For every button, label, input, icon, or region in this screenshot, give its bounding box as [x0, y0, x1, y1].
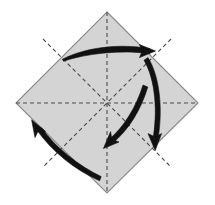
diagram-canvas	[0, 0, 215, 205]
origami-diagram: Origami fold diagram Square sheet shown …	[0, 0, 215, 205]
